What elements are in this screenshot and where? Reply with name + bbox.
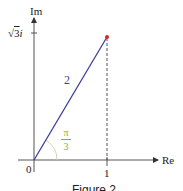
x-tick-label: 1: [104, 168, 110, 179]
vector-point: [105, 35, 109, 39]
angle-arc: [46, 140, 58, 160]
y-tick-label: √3i: [8, 28, 23, 39]
re-axis-label: Re: [162, 155, 174, 166]
vector-length-label: 2: [64, 74, 70, 86]
figure-caption: Figure 2: [72, 184, 116, 191]
origin-label: 0: [26, 164, 32, 175]
im-axis-label: Im: [30, 6, 42, 17]
angle-label: π 3: [61, 128, 71, 152]
